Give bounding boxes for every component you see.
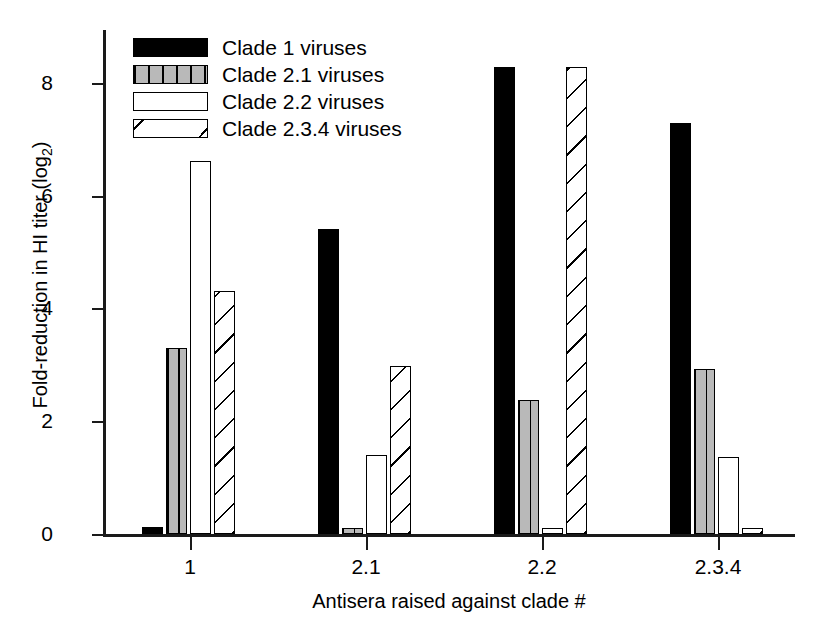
bar: [366, 455, 387, 534]
legend-label: Clade 2.2 viruses: [222, 91, 384, 112]
x-tick-label: 2.1: [306, 555, 426, 579]
bar: [718, 457, 739, 534]
y-tick-label: 6: [13, 185, 53, 206]
legend-label: Clade 2.3.4 viruses: [222, 118, 402, 139]
y-tick-label: 2: [13, 410, 53, 431]
legend-item: Clade 2.2 viruses: [133, 88, 402, 115]
legend-item: Clade 2.1 viruses: [133, 61, 402, 88]
bar: [342, 528, 363, 534]
y-tick-label: 0: [13, 523, 53, 544]
x-tick-mark: [366, 537, 368, 550]
x-tick-mark: [190, 537, 192, 550]
legend-swatch: [133, 119, 208, 138]
y-tick-mark: [92, 196, 103, 198]
bar: [190, 161, 211, 534]
bar: [742, 528, 763, 534]
x-axis-title: Antisera raised against clade #: [103, 590, 795, 613]
legend: Clade 1 virusesClade 2.1 virusesClade 2.…: [133, 34, 402, 142]
y-axis-title-tail: ): [29, 142, 51, 149]
legend-label: Clade 1 viruses: [222, 37, 367, 58]
y-tick-mark: [92, 308, 103, 310]
y-tick-label: 8: [13, 72, 53, 93]
bar: [518, 400, 539, 534]
y-tick-label: 4: [13, 297, 53, 318]
legend-swatch: [133, 38, 208, 57]
x-tick-label: 2.3.4: [658, 555, 778, 579]
bar: [670, 123, 691, 534]
y-axis-title-subscript: 2: [39, 148, 55, 156]
y-tick-mark: [92, 83, 103, 85]
x-tick-label: 2.2: [482, 555, 602, 579]
legend-item: Clade 1 viruses: [133, 34, 402, 61]
legend-item: Clade 2.3.4 viruses: [133, 115, 402, 142]
x-tick-mark: [718, 537, 720, 550]
y-tick-mark: [92, 421, 103, 423]
y-tick-mark: [92, 534, 103, 536]
bar: [694, 369, 715, 534]
bar-chart-figure: Fold-reduction in HI titer (log2) 02468 …: [0, 0, 832, 637]
x-tick-label: 1: [130, 555, 250, 579]
x-tick-mark: [542, 537, 544, 550]
legend-swatch: [133, 92, 208, 111]
bar: [142, 527, 163, 534]
x-axis-line: [103, 534, 795, 537]
bar: [214, 291, 235, 534]
legend-label: Clade 2.1 viruses: [222, 64, 384, 85]
legend-swatch: [133, 65, 208, 84]
bar: [566, 67, 587, 534]
bar: [166, 348, 187, 534]
bar: [318, 229, 339, 534]
bar: [494, 67, 515, 534]
bar: [542, 528, 563, 534]
bar: [390, 366, 411, 534]
